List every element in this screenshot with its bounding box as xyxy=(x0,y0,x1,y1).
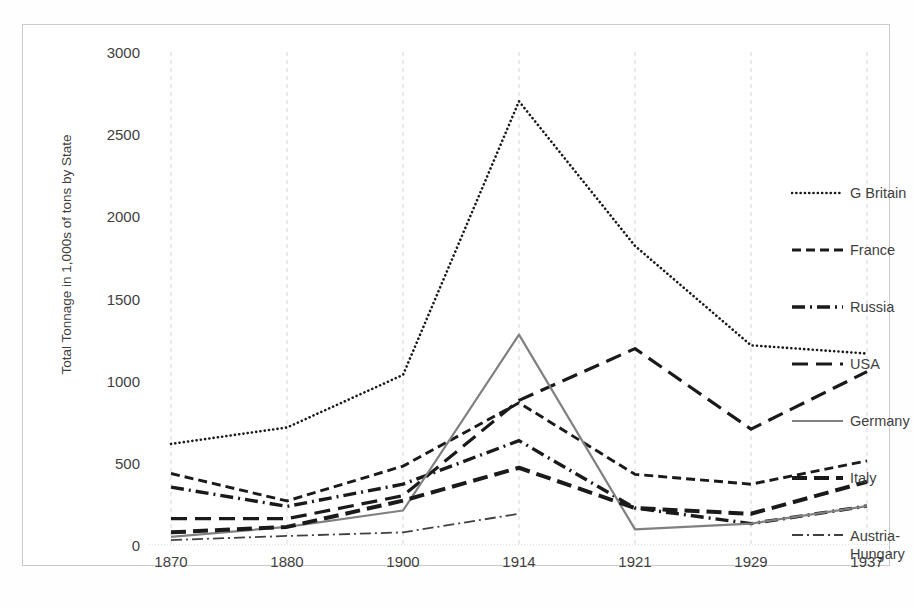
y-tick-label: 0 xyxy=(132,537,140,554)
x-tick-label: 1900 xyxy=(386,553,419,570)
x-tick-label: 1880 xyxy=(270,553,303,570)
legend-item-label: France xyxy=(850,242,895,259)
legend-item-label: Germany xyxy=(850,413,910,430)
plot-area: 050010001500200025003000 187018801900191… xyxy=(149,52,889,545)
y-tick-label: 2000 xyxy=(107,208,140,225)
x-tick-label: 1914 xyxy=(502,553,535,570)
legend-item-label: Austria-Hungary xyxy=(850,527,914,563)
y-tick-label: 2500 xyxy=(107,126,140,143)
y-axis-title: Total Tonnage in 1,000s of tons by State xyxy=(59,45,74,465)
series-canvas xyxy=(149,52,889,545)
legend-line-swatch-icon xyxy=(791,471,844,485)
legend-line-swatch-icon xyxy=(791,186,844,200)
legend-item-label: USA xyxy=(850,356,880,373)
legend-line-swatch-icon xyxy=(791,300,844,314)
chart-page: Total Tonnage in 1,000s of tons by State… xyxy=(0,0,914,607)
series-line-g-britain xyxy=(171,101,867,444)
x-tick-label: 1870 xyxy=(154,553,187,570)
y-tick-label: 500 xyxy=(115,454,140,471)
legend-line-swatch-icon xyxy=(791,528,844,542)
legend-line-swatch-icon xyxy=(791,243,844,257)
legend-item-label: Italy xyxy=(850,470,877,487)
x-tick-label: 1921 xyxy=(618,553,651,570)
y-tick-label: 3000 xyxy=(107,44,140,61)
y-tick-label: 1000 xyxy=(107,372,140,389)
legend-item-label: G Britain xyxy=(850,185,906,202)
y-tick-label: 1500 xyxy=(107,290,140,307)
legend-line-swatch-icon xyxy=(791,414,844,428)
chart-frame: Total Tonnage in 1,000s of tons by State… xyxy=(22,24,890,566)
legend-line-swatch-icon xyxy=(791,357,844,371)
x-tick-label: 1929 xyxy=(734,553,767,570)
legend-item-label: Russia xyxy=(850,299,894,316)
